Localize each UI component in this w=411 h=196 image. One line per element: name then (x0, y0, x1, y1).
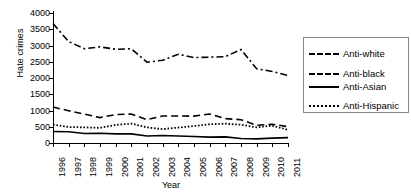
legend-label: Anti-white (343, 48, 385, 59)
y-tick-label: 2500 (30, 57, 50, 67)
legend-label: Anti-black (343, 68, 385, 79)
legend-swatch-dashdot-icon (309, 73, 339, 75)
y-tick (49, 62, 53, 63)
x-tick-label: 1999 (104, 157, 114, 177)
x-tick (272, 143, 273, 147)
x-tick-label: 2003 (167, 157, 177, 177)
y-tick-label: 3500 (30, 24, 50, 34)
y-tick (49, 111, 53, 112)
x-tick-label: 2011 (292, 158, 302, 177)
legend-swatch-solid-icon (309, 86, 339, 88)
legend-swatch-dashed-icon (309, 53, 339, 55)
x-tick (53, 143, 54, 147)
x-tick (163, 143, 164, 147)
x-tick (84, 143, 85, 147)
legend-label: Anti-Asian (343, 81, 386, 92)
x-tick-label: 2008 (245, 157, 255, 177)
x-tick (225, 143, 226, 147)
x-tick (288, 143, 289, 147)
y-tick-label: 2000 (30, 73, 50, 83)
series-lines (53, 13, 288, 143)
x-tick-label: 2000 (120, 157, 130, 177)
hate-crimes-line-chart: Hate crimes 0500100015002000250030003500… (0, 0, 411, 196)
x-tick-label: 2002 (151, 157, 161, 177)
x-tick (210, 143, 211, 147)
series-line-anti-asian (53, 131, 288, 138)
plot-area (53, 13, 288, 143)
x-tick (241, 143, 242, 147)
y-tick (49, 127, 53, 128)
x-tick-label: 2007 (229, 157, 239, 177)
x-tick (69, 143, 70, 147)
y-tick (49, 46, 53, 47)
legend-item-anti-hispanic[interactable]: Anti-Hispanic (309, 100, 399, 111)
x-tick-label: 2001 (135, 157, 145, 177)
y-tick (49, 29, 53, 30)
x-axis-line (53, 143, 289, 144)
y-tick-label: 3000 (30, 41, 50, 51)
x-tick (257, 143, 258, 147)
x-tick-label: 2006 (214, 157, 224, 177)
x-tick (116, 143, 117, 147)
x-tick-label: 2010 (276, 157, 286, 177)
legend-item-anti-asian[interactable]: Anti-Asian (309, 81, 386, 92)
x-tick (147, 143, 148, 147)
x-tick (100, 143, 101, 147)
x-tick-label: 2009 (261, 157, 271, 177)
y-axis-tick-labels: 05001000150020002500300035004000 (18, 0, 50, 150)
x-tick (178, 143, 179, 147)
x-tick-label: 2005 (198, 157, 208, 177)
x-axis-title: Year (53, 180, 289, 190)
x-tick-label: 1998 (88, 157, 98, 177)
legend-item-anti-black[interactable]: Anti-black (309, 68, 385, 79)
y-tick (49, 13, 53, 14)
x-tick-label: 1996 (57, 157, 67, 177)
chart-legend: Anti-whiteAnti-blackAnti-AsianAnti-Hispa… (303, 37, 409, 113)
x-tick-label: 2004 (182, 157, 192, 177)
x-tick (194, 143, 195, 147)
legend-item-anti-white[interactable]: Anti-white (309, 48, 385, 59)
x-tick (131, 143, 132, 147)
y-tick-label: 4000 (30, 8, 50, 18)
y-tick-label: 500 (35, 122, 50, 132)
y-tick (49, 94, 53, 95)
series-line-anti-white (53, 107, 288, 127)
x-axis-tick-labels: 1996199719981999200020012002200320042005… (53, 149, 289, 179)
series-line-anti-black (53, 24, 288, 76)
y-tick (49, 78, 53, 79)
y-tick-label: 1000 (30, 106, 50, 116)
legend-swatch-dotted-icon (309, 105, 339, 107)
y-tick-label: 1500 (30, 89, 50, 99)
x-tick-label: 1997 (73, 157, 83, 177)
legend-label: Anti-Hispanic (343, 100, 399, 111)
